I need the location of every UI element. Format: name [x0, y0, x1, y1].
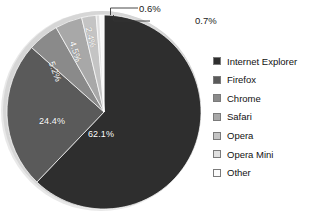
legend-item-label: Safari [227, 112, 252, 122]
legend-swatch-icon [213, 57, 221, 65]
legend-item-label: Firefox [227, 75, 256, 85]
legend: Internet ExplorerFirefoxChromeSafariOper… [213, 52, 312, 182]
slice-label-firefox: 24.4% [39, 116, 65, 126]
legend-item-label: Internet Explorer [227, 57, 297, 67]
pie-plot-area: 62.1% 24.4% 5.2% 4.5% 2.4% 0.6% 0.7% [0, 0, 212, 217]
legend-item-chrome[interactable]: Chrome [213, 89, 312, 108]
legend-item-internet-explorer[interactable]: Internet Explorer [213, 52, 312, 71]
slice-label-opera-mini: 0.6% [139, 3, 161, 14]
pie-chart: 62.1% 24.4% 5.2% 4.5% 2.4% 0.6% 0.7% Int… [0, 0, 312, 217]
legend-swatch-icon [213, 150, 221, 158]
slice-label-internet-explorer: 62.1% [88, 129, 114, 139]
legend-swatch-icon [213, 132, 221, 140]
legend-item-label: Chrome [227, 94, 261, 104]
pie-svg [0, 0, 212, 217]
legend-item-firefox[interactable]: Firefox [213, 71, 312, 90]
legend-item-opera[interactable]: Opera [213, 126, 312, 145]
legend-item-safari[interactable]: Safari [213, 108, 312, 127]
legend-swatch-icon [213, 94, 221, 102]
legend-item-other[interactable]: Other [213, 164, 312, 183]
legend-swatch-icon [213, 76, 221, 84]
legend-item-opera-mini[interactable]: Opera Mini [213, 145, 312, 164]
legend-item-label: Opera Mini [227, 150, 273, 160]
pie-slices [7, 15, 201, 209]
legend-swatch-icon [213, 113, 221, 121]
legend-item-label: Other [227, 168, 251, 178]
legend-item-label: Opera [227, 131, 253, 141]
legend-swatch-icon [213, 169, 221, 177]
slice-label-other: 0.7% [195, 15, 217, 26]
